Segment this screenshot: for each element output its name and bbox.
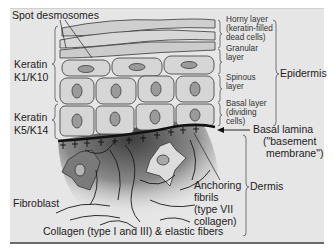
label-keratin-k5k14-line1: Keratin: [14, 112, 47, 123]
label-keratin-k1k10-line1: Keratin: [14, 59, 47, 70]
label-basal-layer-3: cells): [226, 118, 245, 127]
label-collagen: Collagen (type I and III) & elastic fibe…: [43, 226, 223, 237]
label-spot-desmosomes: Spot desmosomes: [12, 10, 99, 21]
label-anchoring-fibrils-3: (type VII: [194, 204, 233, 215]
label-basal-lamina-3: membrane"): [266, 148, 323, 159]
label-anchoring-fibrils-2: fibrils: [194, 192, 219, 203]
label-granular-layer-2: layer: [226, 54, 244, 63]
label-fibroblast: Fibroblast: [13, 198, 59, 209]
label-epidermis: Epidermis: [280, 68, 327, 79]
label-anchoring-fibrils-1: Anchoring: [194, 180, 241, 191]
label-horny-layer-3: dead cells): [226, 34, 266, 43]
basal-lamina-arrow: [217, 127, 250, 133]
label-keratin-k5k14-line2: K5/K14: [14, 125, 48, 136]
label-basal-lamina-2: ("basement: [263, 136, 316, 147]
label-dermis: Dermis: [250, 181, 283, 192]
epidermal-cells: [60, 19, 215, 136]
label-spinous-layer-2: layer: [226, 83, 244, 92]
label-keratin-k1k10-line2: K1/K10: [14, 72, 48, 83]
label-basal-lamina-1: Basal lamina: [253, 124, 313, 135]
